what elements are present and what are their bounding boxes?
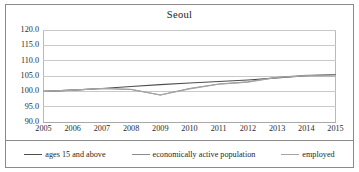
y-axis-tick-label: 110.0 xyxy=(0,57,39,65)
chart-title: Seoul xyxy=(0,9,359,21)
series-line xyxy=(44,75,336,95)
plot-area xyxy=(43,30,336,122)
y-axis-tick-label: 100.0 xyxy=(0,87,39,95)
legend-line-icon xyxy=(281,154,299,155)
y-axis-tick-label: 120.0 xyxy=(0,26,39,34)
legend-item[interactable]: employed xyxy=(281,150,334,159)
legend-line-icon xyxy=(132,154,150,155)
chart-legend: ages 15 and aboveeconomically active pop… xyxy=(5,140,354,168)
series-lines xyxy=(43,30,336,122)
legend-line-icon xyxy=(24,154,42,155)
x-axis-tick-label: 2015 xyxy=(316,124,356,134)
legend-item[interactable]: ages 15 and above xyxy=(24,150,105,159)
legend-label: economically active population xyxy=(153,150,256,159)
legend-item[interactable]: economically active population xyxy=(132,150,256,159)
y-axis-tick-label: 115.0 xyxy=(0,41,39,49)
x-axis-tick-labels: 2005200620072008200920102011201220132014… xyxy=(43,124,336,136)
y-axis-tick-label: 105.0 xyxy=(0,72,39,80)
chart-figure: Seoul 120.0115.0110.0105.0100.095.090.0 … xyxy=(0,0,359,172)
legend-label: ages 15 and above xyxy=(45,150,105,159)
y-axis-tick-label: 95.0 xyxy=(0,103,39,111)
legend-label: employed xyxy=(302,150,334,159)
series-line xyxy=(44,76,336,95)
